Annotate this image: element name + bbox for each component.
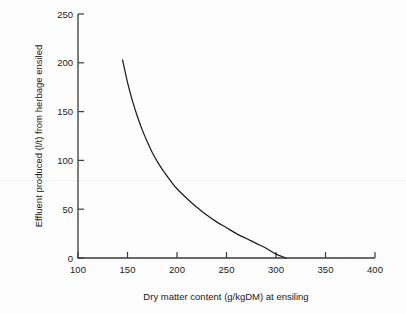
y-tick-label-50: 50: [62, 204, 73, 215]
x-tick-label-200: 200: [169, 264, 185, 275]
effluent-vs-dry-matter-chart: 250 200 150 100 50 0 100 150 200 250 300…: [0, 0, 406, 314]
y-tick-label-250: 250: [57, 9, 73, 20]
x-tick-label-100: 100: [70, 264, 86, 275]
x-axis-ticks: [78, 252, 375, 258]
x-tick-label-150: 150: [120, 264, 136, 275]
y-tick-label-0: 0: [68, 253, 73, 264]
y-axis-tick-labels: 250 200 150 100 50 0: [57, 9, 73, 264]
x-tick-label-350: 350: [318, 264, 334, 275]
figure-container: 250 200 150 100 50 0 100 150 200 250 300…: [0, 0, 406, 314]
axis-spines: [78, 14, 375, 258]
y-axis-ticks: [78, 14, 84, 258]
y-tick-label-150: 150: [57, 106, 73, 117]
y-tick-label-100: 100: [57, 155, 73, 166]
y-tick-label-200: 200: [57, 57, 73, 68]
x-axis-tick-labels: 100 150 200 250 300 350 400: [70, 264, 383, 275]
effluent-curve: [123, 60, 286, 258]
x-tick-label-250: 250: [219, 264, 235, 275]
x-tick-label-400: 400: [367, 264, 383, 275]
x-tick-label-300: 300: [268, 264, 284, 275]
x-axis-title: Dry matter content (g/kgDM) at ensiling: [143, 291, 308, 302]
y-axis-title: Effluent produced (l/t) from herbage ens…: [33, 45, 44, 228]
